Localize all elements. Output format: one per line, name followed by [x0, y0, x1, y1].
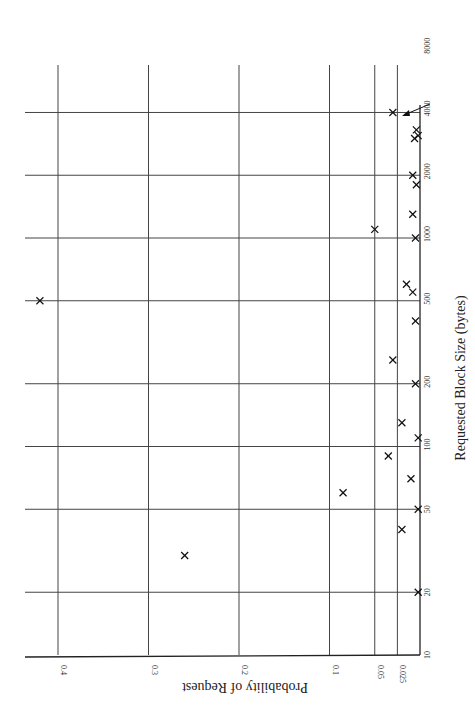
data-point-x-mark [398, 419, 405, 426]
x-tick-label: 10 [423, 651, 432, 659]
data-point-x-mark [413, 126, 420, 133]
x-axis-label: Requested Block Size (bytes) [453, 295, 469, 461]
data-point-x-mark [181, 552, 188, 559]
axes [25, 105, 420, 657]
data-point-x-mark [403, 281, 410, 288]
x-tick-label: 50 [423, 505, 432, 513]
x-tick-label: 500 [423, 293, 432, 305]
y-tick-label: 0.05 [376, 665, 385, 679]
y-tick-label: 0.1 [331, 665, 340, 675]
x-tick-label: 100 [423, 439, 432, 451]
data-point-x-mark [412, 317, 419, 324]
y-tick-label: 0.2 [240, 665, 249, 675]
data-point-x-mark [389, 356, 396, 363]
x-tick-label: 8000 [423, 38, 432, 54]
x-tick-label: 200 [423, 376, 432, 388]
rotated-scatter-chart: 0.0250.050.10.20.30.41020501002005001000… [0, 0, 475, 724]
tick-labels: 0.0250.050.10.20.30.41020501002005001000… [59, 38, 432, 683]
data-point-x-mark [413, 181, 420, 188]
y-axis-label: Probability of Request [182, 680, 308, 695]
x-tick-label: 20 [423, 588, 432, 596]
grid [25, 65, 420, 655]
y-tick-label: 0.025 [398, 665, 407, 683]
x-tick-label: 4000 [423, 100, 432, 116]
data-point-x-mark [340, 489, 347, 496]
data-point-x-mark [398, 526, 405, 533]
data-point-x-mark [407, 475, 414, 482]
data-point-x-mark [409, 289, 416, 296]
y-tick-label: 0.3 [150, 665, 159, 675]
x-tick-label: 1000 [423, 226, 432, 242]
data-points [36, 109, 421, 596]
data-point-x-mark [409, 211, 416, 218]
y-tick-label: 0.4 [59, 665, 68, 675]
x-tick-label: 2000 [423, 163, 432, 179]
data-point-x-mark [385, 453, 392, 460]
